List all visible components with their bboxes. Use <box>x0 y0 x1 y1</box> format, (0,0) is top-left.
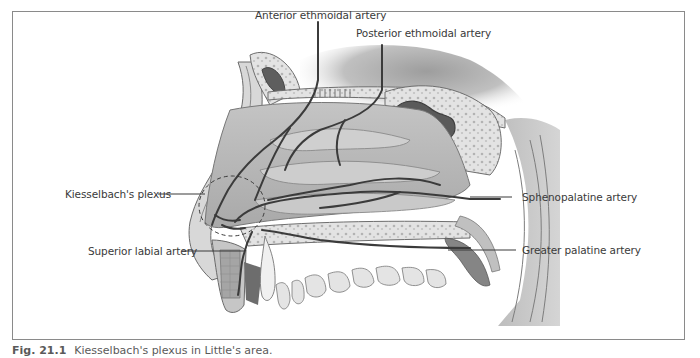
figure-caption-text: Kiesselbach's plexus in Little's area. <box>74 344 272 357</box>
nasal-cavity <box>205 103 470 228</box>
label-anterior-ethmoidal-artery: Anterior ethmoidal artery <box>255 9 386 21</box>
label-greater-palatine-artery: Greater palatine artery <box>522 244 641 256</box>
label-posterior-ethmoidal-artery: Posterior ethmoidal artery <box>356 27 491 39</box>
figure-caption: Fig. 21.1Kiesselbach's plexus in Little'… <box>12 344 272 358</box>
label-superior-labial-artery: Superior labial artery <box>88 245 197 257</box>
figure-number: Fig. 21.1 <box>12 344 66 357</box>
label-sphenopalatine-artery: Sphenopalatine artery <box>522 191 637 203</box>
pharynx-wall <box>498 118 560 326</box>
label-kiesselbachs-plexus: Kiesselbach's plexus <box>65 188 171 200</box>
